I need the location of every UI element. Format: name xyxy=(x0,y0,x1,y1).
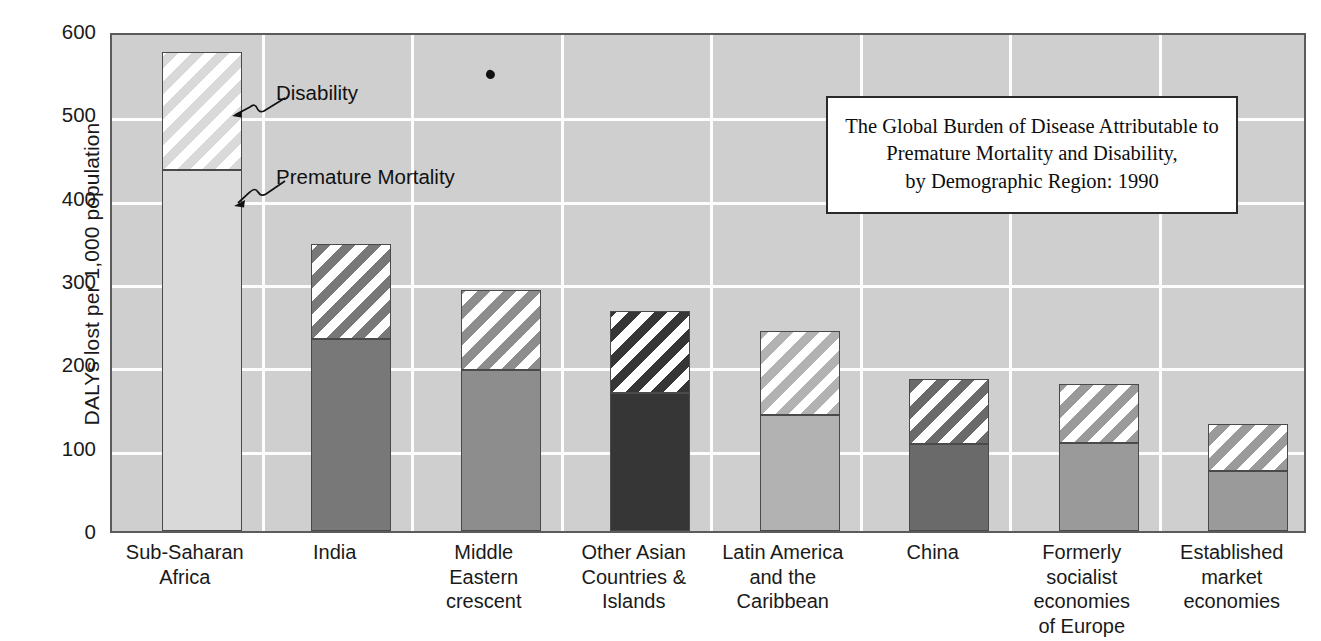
segment-premature-mortality[interactable] xyxy=(162,170,242,531)
x-tick-label: Latin Americaand theCaribbean xyxy=(708,540,858,614)
bar-formerly-socialist-economies-of-europe[interactable] xyxy=(1059,384,1139,531)
y-tick-label: 300 xyxy=(34,270,96,294)
y-tick-label: 200 xyxy=(34,353,96,377)
x-tick-label-line: market xyxy=(1157,565,1307,590)
x-tick-label-line: Latin America xyxy=(708,540,858,565)
x-tick-label: Sub-SaharanAfrica xyxy=(110,540,260,589)
y-tick-label: 600 xyxy=(34,20,96,44)
x-tick-label-line: crescent xyxy=(409,589,559,614)
ink-speck-artifact xyxy=(485,69,496,80)
segment-premature-mortality[interactable] xyxy=(1059,443,1139,531)
segment-premature-mortality[interactable] xyxy=(760,415,840,531)
bar-established-market-economies[interactable] xyxy=(1208,424,1288,531)
y-tick-label: 400 xyxy=(34,187,96,211)
bar-china[interactable] xyxy=(909,379,989,532)
segment-disability[interactable] xyxy=(311,244,391,338)
y-tick-label: 0 xyxy=(34,520,96,544)
x-tick-label-line: India xyxy=(260,540,410,565)
annotation-premature-mortality: Premature Mortality xyxy=(276,165,455,189)
x-tick-label: MiddleEasterncrescent xyxy=(409,540,559,614)
vertical-gridline xyxy=(710,35,713,531)
x-tick-label-line: Other Asian xyxy=(559,540,709,565)
bar-middle-eastern-crescent[interactable] xyxy=(461,290,541,531)
segment-disability[interactable] xyxy=(1208,424,1288,471)
x-tick-label: Establishedmarketeconomies xyxy=(1157,540,1307,614)
segment-disability[interactable] xyxy=(909,379,989,444)
x-tick-label: India xyxy=(260,540,410,565)
y-tick-label: 100 xyxy=(34,437,96,461)
segment-premature-mortality[interactable] xyxy=(909,444,989,532)
x-tick-label-line: China xyxy=(858,540,1008,565)
x-tick-label-line: Africa xyxy=(110,565,260,590)
x-tick-label-line: Eastern xyxy=(409,565,559,590)
vertical-gridline xyxy=(411,35,414,531)
segment-premature-mortality[interactable] xyxy=(461,370,541,531)
title-line-2: Premature Mortality and Disability, xyxy=(838,140,1226,167)
x-tick-label-line: Established xyxy=(1157,540,1307,565)
x-tick-label: China xyxy=(858,540,1008,565)
segment-premature-mortality[interactable] xyxy=(1208,471,1288,531)
x-tick-label-line: Islands xyxy=(559,589,709,614)
x-tick-label-line: socialist xyxy=(1007,565,1157,590)
annotation-disability: Disability xyxy=(276,81,358,105)
x-tick-label: Other AsianCountries &Islands xyxy=(559,540,709,614)
y-tick-label: 500 xyxy=(34,103,96,127)
vertical-gridline xyxy=(561,35,564,531)
x-tick-label-line: Sub-Saharan xyxy=(110,540,260,565)
horizontal-gridline xyxy=(112,368,1304,371)
title-line-3: by Demographic Region: 1990 xyxy=(838,168,1226,195)
x-axis-tick-labels: Sub-SaharanAfricaIndiaMiddleEasterncresc… xyxy=(110,540,1306,640)
segment-premature-mortality[interactable] xyxy=(610,393,690,531)
x-tick-label-line: Middle xyxy=(409,540,559,565)
x-tick-label-line: of Europe xyxy=(1007,614,1157,639)
x-tick-label-line: economies xyxy=(1007,589,1157,614)
bar-india[interactable] xyxy=(311,244,391,531)
segment-disability[interactable] xyxy=(760,331,840,415)
x-tick-label-line: Caribbean xyxy=(708,589,858,614)
chart-figure: DALYs lost per 1,000 population 60050040… xyxy=(0,0,1321,641)
x-tick-label-line: and the xyxy=(708,565,858,590)
x-tick-label: Formerlysocialisteconomiesof Europe xyxy=(1007,540,1157,638)
x-tick-label-line: Formerly xyxy=(1007,540,1157,565)
segment-disability[interactable] xyxy=(610,311,690,393)
chart-title-box: The Global Burden of Disease Attributabl… xyxy=(826,96,1238,214)
horizontal-gridline xyxy=(112,285,1304,288)
x-tick-label-line: economies xyxy=(1157,589,1307,614)
y-axis-tick-labels: 6005004003002001000 xyxy=(34,0,96,641)
x-tick-label-line: Countries & xyxy=(559,565,709,590)
segment-disability[interactable] xyxy=(1059,384,1139,442)
segment-premature-mortality[interactable] xyxy=(311,339,391,532)
title-line-1: The Global Burden of Disease Attributabl… xyxy=(838,113,1226,140)
bar-latin-america-and-the-caribbean[interactable] xyxy=(760,331,840,531)
bar-other-asian-countries-islands[interactable] xyxy=(610,311,690,531)
segment-disability[interactable] xyxy=(461,290,541,370)
